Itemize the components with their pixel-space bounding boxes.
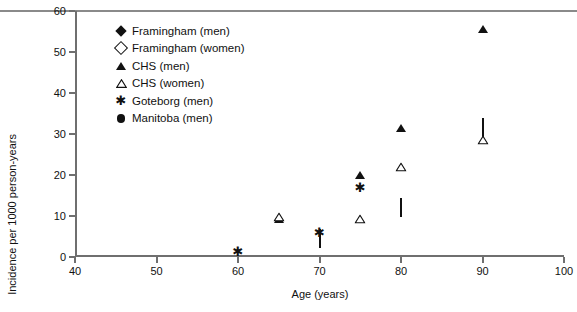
x-tick — [482, 257, 484, 263]
legend-item: Framingham (men) — [110, 22, 244, 40]
y-tick-label: 50 — [54, 46, 66, 58]
y-tick-label: 20 — [54, 169, 66, 181]
data-point — [478, 8, 488, 26]
x-tick — [74, 257, 76, 263]
legend-marker — [110, 114, 132, 123]
x-tick-label: 90 — [476, 265, 488, 277]
data-point — [477, 136, 488, 145]
data-point: ✱ — [314, 223, 325, 241]
y-tick — [69, 174, 75, 176]
x-tick-label: 40 — [69, 265, 81, 277]
data-point — [396, 107, 406, 125]
legend: Framingham (men)Framingham (women)CHS (m… — [110, 22, 244, 127]
data-point: ✱ — [355, 178, 366, 196]
filled-triangle-icon — [396, 107, 406, 132]
y-tick — [69, 51, 75, 53]
y-tick-label: 60 — [54, 5, 66, 17]
legend-item: Manitoba (men) — [110, 110, 244, 128]
filled-diamond-icon — [115, 25, 126, 36]
y-tick — [69, 215, 75, 217]
y-tick — [69, 10, 75, 12]
legend-label: Framingham (men) — [132, 25, 230, 37]
x-tick-label: 50 — [150, 265, 162, 277]
legend-label: Framingham (women) — [132, 42, 244, 54]
legend-label: Manitoba (men) — [132, 112, 213, 124]
x-axis-label: Age (years) — [292, 288, 349, 300]
x-tick-label: 80 — [395, 265, 407, 277]
data-point — [482, 119, 484, 137]
data-point: ✱ — [233, 242, 244, 260]
legend-marker — [110, 27, 132, 35]
legend-item: ✱Goteborg (men) — [110, 92, 244, 110]
legend-item: Framingham (women) — [110, 40, 244, 58]
x-tick — [319, 257, 321, 263]
x-tick-label: 70 — [313, 265, 325, 277]
y-tick-label: 10 — [54, 210, 66, 222]
y-tick-label: 30 — [54, 128, 66, 140]
legend-marker: ✱ — [110, 97, 132, 105]
open-diamond-icon — [400, 198, 402, 217]
data-point — [355, 154, 365, 172]
data-point — [396, 162, 407, 171]
asterisk-icon: ✱ — [233, 244, 244, 259]
y-tick — [69, 92, 75, 94]
y-tick — [69, 133, 75, 135]
legend-item: CHS (men) — [110, 57, 244, 75]
filled-triangle-icon — [478, 8, 488, 33]
filled-circle-icon — [117, 114, 126, 123]
asterisk-icon: ✱ — [116, 97, 127, 105]
legend-label: CHS (women) — [132, 77, 204, 89]
x-tick — [563, 257, 565, 263]
figure: Incidence per 1000 person-years Age (yea… — [0, 0, 577, 312]
x-tick-label: 60 — [232, 265, 244, 277]
data-point — [273, 212, 284, 221]
data-point — [400, 199, 402, 217]
y-tick-label: 40 — [54, 87, 66, 99]
legend-label: Goteborg (men) — [132, 95, 213, 107]
legend-marker — [110, 62, 132, 70]
filled-triangle-icon — [355, 154, 365, 179]
legend-marker — [110, 43, 132, 53]
x-tick — [400, 257, 402, 263]
asterisk-icon: ✱ — [314, 225, 325, 240]
asterisk-icon: ✱ — [355, 180, 366, 195]
open-triangle-icon — [396, 162, 407, 171]
legend-marker — [110, 79, 132, 88]
y-axis-line — [75, 11, 77, 257]
x-tick — [156, 257, 158, 263]
legend-label: CHS (men) — [132, 60, 190, 72]
open-triangle-icon — [355, 214, 366, 223]
open-diamond-icon — [482, 118, 484, 137]
legend-item: CHS (women) — [110, 75, 244, 93]
open-diamond-icon — [114, 41, 128, 55]
filled-triangle-icon — [116, 62, 126, 70]
data-point — [355, 214, 366, 223]
y-axis-label: Incidence per 1000 person-years — [6, 134, 18, 295]
x-tick-label: 100 — [555, 265, 573, 277]
y-tick-label: 0 — [60, 251, 66, 263]
open-triangle-icon — [477, 136, 488, 145]
open-triangle-icon — [273, 212, 284, 221]
open-triangle-icon — [116, 79, 127, 88]
